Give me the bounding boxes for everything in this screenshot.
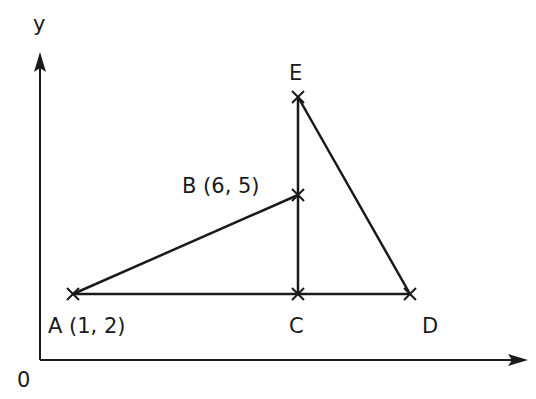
coordinate-diagram: [0, 0, 536, 399]
y-axis-label: y: [33, 14, 45, 35]
segment-AB: [73, 195, 298, 294]
origin-label: 0: [17, 370, 30, 391]
point-label-B: B (6, 5): [182, 176, 260, 197]
point-label-C: C: [289, 316, 304, 337]
point-label-E: E: [289, 63, 302, 84]
segment-ED: [298, 97, 410, 294]
point-label-D: D: [422, 316, 438, 337]
point-label-A: A (1, 2): [48, 316, 126, 337]
